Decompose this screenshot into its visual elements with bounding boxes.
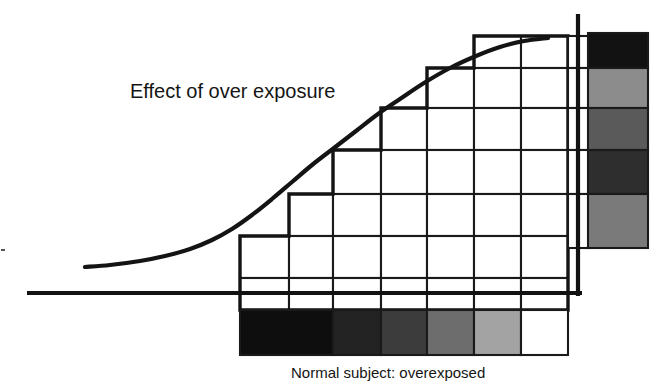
grid-cell <box>381 236 427 278</box>
grid-cell <box>289 194 333 236</box>
figure-canvas: Effect of over exposure Normal subject: … <box>0 0 662 389</box>
grid-cell <box>333 236 381 278</box>
grid-cell <box>333 150 381 194</box>
grid-cell <box>289 236 333 278</box>
chart-title-label: Effect of over exposure <box>130 80 335 102</box>
exposure-grid <box>240 36 568 310</box>
subject-swatch <box>474 310 521 355</box>
density-swatch <box>588 68 648 108</box>
density-swatch <box>588 194 648 248</box>
subject-swatch <box>240 310 333 355</box>
grid-cell <box>521 236 568 278</box>
grid-cell <box>521 194 568 236</box>
grid-cell <box>427 108 474 150</box>
subject-swatch <box>521 310 568 355</box>
grid-cell <box>381 150 427 194</box>
subject-swatch <box>381 310 427 355</box>
grid-cell <box>381 108 427 150</box>
density-scale-wedge <box>588 33 648 248</box>
grid-cell <box>474 236 521 278</box>
grid-cell <box>333 194 381 236</box>
grid-cell <box>427 68 474 108</box>
grid-cell <box>521 108 568 150</box>
grid-cell <box>474 108 521 150</box>
grid-cell <box>521 150 568 194</box>
grid-cell <box>521 68 568 108</box>
subject-swatch <box>427 310 474 355</box>
subject-scale-wedge <box>240 310 568 355</box>
grid-cell <box>381 194 427 236</box>
subject-swatch <box>333 310 381 355</box>
grid-cell <box>474 68 521 108</box>
density-swatch <box>588 33 648 68</box>
density-swatch <box>588 108 648 150</box>
grid-cell <box>427 150 474 194</box>
characteristic-curve-figure: Effect of over exposure Normal subject: … <box>0 0 662 389</box>
grid-cell <box>474 150 521 194</box>
density-swatch <box>588 150 648 194</box>
grid-cell <box>427 194 474 236</box>
grid-cell <box>474 194 521 236</box>
grid-cell <box>240 236 289 278</box>
grid-cell <box>427 236 474 278</box>
chart-caption-label: Normal subject: overexposed <box>291 364 485 381</box>
